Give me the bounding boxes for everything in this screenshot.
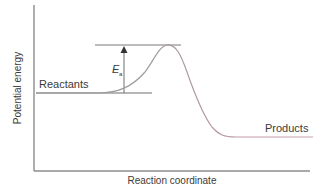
x-axis-label: Reaction coordinate — [128, 175, 217, 186]
reactants-label: Reactants — [39, 78, 89, 90]
activation-energy-subscript: a — [119, 71, 123, 77]
arrowhead-icon — [121, 46, 128, 53]
energy-diagram: Reactants Products Reaction coordinate P… — [0, 0, 335, 188]
y-axis-label: Potential energy — [12, 52, 23, 124]
products-label: Products — [265, 122, 309, 134]
